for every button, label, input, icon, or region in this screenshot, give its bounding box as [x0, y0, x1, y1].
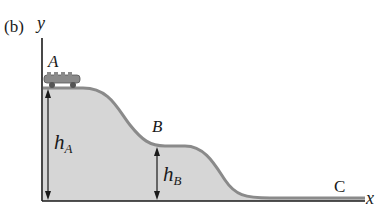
point-label-C: C [334, 178, 345, 195]
height-label-hB: hB [163, 164, 181, 187]
point-label-A: A [48, 53, 58, 70]
diagram-canvas [0, 0, 377, 212]
roller-coaster-car-icon [44, 72, 80, 88]
point-label-B: B [152, 118, 162, 135]
height-label-hA: hA [54, 132, 72, 155]
panel-label: (b) [4, 18, 24, 35]
x-axis-label: x [366, 189, 374, 207]
terrain-fill [43, 88, 365, 201]
y-axis-label: y [37, 14, 45, 32]
